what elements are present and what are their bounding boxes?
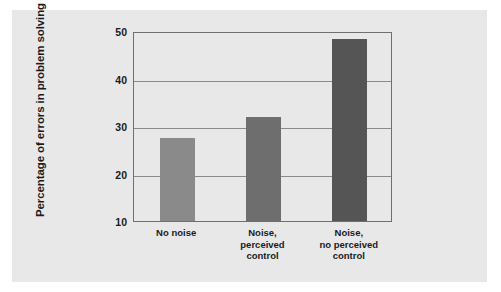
y-axis-title: Percentage of errors in problem solving: [34, 0, 46, 220]
x-tick-label-0-line-0: No noise: [126, 227, 226, 239]
y-tick-label-50: 50: [103, 26, 127, 38]
x-tick-label-2-line-1: no perceived: [299, 239, 399, 251]
bar-0: [160, 138, 195, 221]
x-tick-label-1-line-2: control: [213, 250, 313, 262]
x-tick-label-1-line-1: perceived: [213, 239, 313, 251]
x-tick-label-2-line-2: control: [299, 250, 399, 262]
x-tick-label-0: No noise: [126, 227, 226, 239]
y-tick-label-30: 30: [103, 121, 127, 133]
x-tick-label-2: Noise,no perceivedcontrol: [299, 227, 399, 262]
bar-2: [332, 39, 367, 221]
bar-1: [246, 117, 281, 222]
x-tick-label-1-line-0: Noise,: [213, 227, 313, 239]
y-tick-label-40: 40: [103, 74, 127, 86]
y-tick-label-10: 10: [103, 216, 127, 228]
x-tick-label-1: Noise,perceivedcontrol: [213, 227, 313, 262]
plot-area: [133, 32, 392, 222]
x-tick-label-2-line-0: Noise,: [299, 227, 399, 239]
y-tick-label-20: 20: [103, 169, 127, 181]
figure-canvas: Percentage of errors in problem solving …: [0, 0, 501, 292]
